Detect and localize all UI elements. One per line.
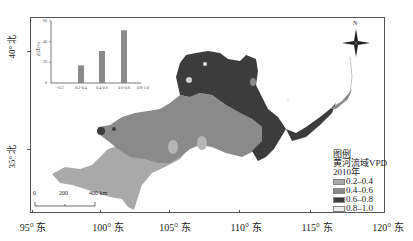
inset-xtick: 0.2-0.4	[75, 85, 86, 90]
inset-xtick: 0.8-1.0	[137, 85, 148, 90]
inset-ytick-40: 40	[43, 39, 47, 44]
lon-label-100: 100° 东	[92, 219, 124, 234]
legend-swatch	[333, 206, 345, 212]
lon-tick	[384, 210, 385, 213]
north-arrow-icon: N	[336, 23, 376, 63]
north-label: N	[353, 20, 357, 26]
legend-swatch	[333, 197, 345, 203]
legend-label: 0.8–1.0	[346, 204, 373, 213]
inset-ytick-0: 0	[45, 80, 47, 85]
lon-tick	[239, 210, 240, 213]
legend-item: 0.8–1.0	[333, 204, 387, 213]
inset-ylabel: 占比(%)	[35, 42, 41, 56]
scale-zero: 0	[33, 190, 36, 196]
inset-xtick: 0.4-0.6	[96, 85, 107, 90]
scale-end: 400 km	[89, 190, 107, 196]
map-legend: 图例 黄河流域VPD 2010年 0.2–0.4 0.4–0.6 0.6–0.8…	[333, 150, 387, 213]
inset-xtick: 0.6-0.8	[118, 85, 129, 90]
legend-swatch	[333, 179, 345, 185]
lon-tick	[310, 210, 311, 213]
lat-label-40: 40° 北	[5, 35, 18, 59]
lon-label-120: 120° 东	[372, 219, 404, 234]
lon-label-95: 95° 东	[20, 219, 47, 234]
lon-label-110: 110° 东	[230, 219, 261, 234]
lat-tick	[27, 51, 30, 52]
legend-swatch	[333, 188, 345, 194]
lat-label-35: 35° 北	[5, 145, 18, 169]
lon-label-115: 115° 东	[301, 219, 332, 234]
lon-tick	[100, 210, 101, 213]
inset-ytick-60: 60	[43, 18, 47, 23]
inset-ytick-20: 20	[43, 59, 47, 64]
scale-mid: 200	[59, 190, 68, 196]
lon-tick	[32, 210, 33, 213]
lon-label-105: 105° 东	[159, 219, 191, 234]
lat-tick	[27, 149, 30, 150]
inset-xtick: <0.2	[56, 85, 63, 90]
lon-tick	[169, 210, 170, 213]
inset-bar-chart: 60 40 20 0 占比(%) <0.2 0.2-0.4 0.4-0.6 0.…	[31, 18, 141, 96]
